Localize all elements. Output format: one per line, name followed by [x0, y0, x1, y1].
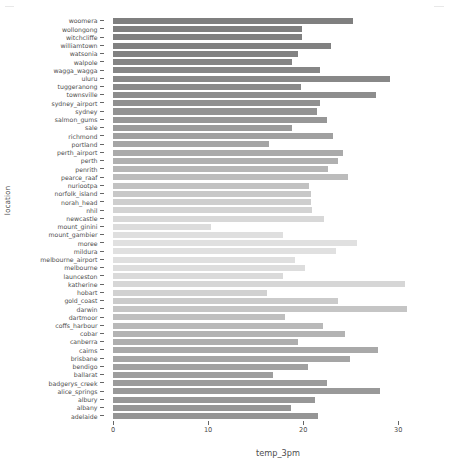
- bar-row: [113, 83, 443, 91]
- bar-row: [113, 33, 443, 41]
- bar[interactable]: [113, 133, 333, 139]
- y-tick-mark: [100, 193, 104, 194]
- y-tick-label-row: newcastle: [0, 215, 104, 223]
- bar-row: [113, 91, 443, 99]
- bar[interactable]: [113, 323, 323, 329]
- y-tick-mark: [100, 234, 104, 235]
- bar-row: [113, 99, 443, 107]
- bar[interactable]: [113, 76, 390, 82]
- bar[interactable]: [113, 174, 348, 180]
- bar[interactable]: [113, 290, 267, 296]
- bar[interactable]: [113, 281, 405, 287]
- y-tick-mark: [100, 102, 104, 103]
- bar[interactable]: [113, 207, 312, 213]
- y-tick-label: albany: [77, 404, 98, 412]
- bar[interactable]: [113, 306, 407, 312]
- bar[interactable]: [113, 216, 324, 222]
- bar[interactable]: [113, 183, 309, 189]
- bar[interactable]: [113, 100, 320, 106]
- bar[interactable]: [113, 380, 327, 386]
- y-tick-label-row: hobart: [0, 289, 104, 297]
- x-tick-mark: [113, 421, 114, 425]
- y-tick-label: williamtown: [61, 42, 98, 50]
- y-tick-label: albury: [78, 396, 98, 404]
- y-tick-mark: [100, 275, 104, 276]
- bar[interactable]: [113, 331, 345, 337]
- bar[interactable]: [113, 158, 338, 164]
- bar[interactable]: [113, 18, 353, 24]
- y-tick-mark: [100, 86, 104, 87]
- bar[interactable]: [113, 413, 318, 419]
- bar[interactable]: [113, 84, 301, 90]
- y-tick-label-row: katherine: [0, 281, 104, 289]
- y-tick-mark: [100, 251, 104, 252]
- bar[interactable]: [113, 265, 305, 271]
- bar[interactable]: [113, 199, 311, 205]
- bar[interactable]: [113, 67, 320, 73]
- bar[interactable]: [113, 388, 380, 394]
- bar[interactable]: [113, 191, 311, 197]
- y-tick-label: portland: [71, 141, 97, 149]
- bar-row: [113, 198, 443, 206]
- y-tick-label-row: dartmoor: [0, 313, 104, 321]
- bar[interactable]: [113, 339, 298, 345]
- bar[interactable]: [113, 43, 331, 49]
- y-tick-mark: [100, 37, 104, 38]
- y-tick-label: pearce_raaf: [61, 174, 98, 182]
- bar-row: [113, 182, 443, 190]
- bar-row: [113, 330, 443, 338]
- bar[interactable]: [113, 397, 315, 403]
- bar[interactable]: [113, 364, 308, 370]
- bar[interactable]: [113, 347, 378, 353]
- bar[interactable]: [113, 248, 336, 254]
- bar[interactable]: [113, 166, 328, 172]
- bar[interactable]: [113, 108, 317, 114]
- y-tick-mark: [100, 135, 104, 136]
- y-tick-mark: [100, 292, 104, 293]
- y-axis-title: location: [3, 186, 12, 215]
- y-tick-mark: [100, 94, 104, 95]
- y-tick-mark: [100, 333, 104, 334]
- y-tick-mark: [100, 366, 104, 367]
- y-tick-label-row: sale: [0, 124, 104, 132]
- x-tick-label: 20: [299, 426, 307, 434]
- bar[interactable]: [113, 405, 291, 411]
- bar[interactable]: [113, 125, 292, 131]
- y-tick-mark: [100, 242, 104, 243]
- bar[interactable]: [113, 273, 283, 279]
- bar[interactable]: [113, 298, 338, 304]
- bar[interactable]: [113, 150, 343, 156]
- y-tick-mark: [100, 317, 104, 318]
- y-tick-label-row: sydney: [0, 108, 104, 116]
- y-tick-mark: [100, 28, 104, 29]
- y-tick-label-row: wagga_wagga: [0, 66, 104, 74]
- bar[interactable]: [113, 224, 211, 230]
- y-tick-label: perth: [81, 157, 98, 165]
- bar-row: [113, 132, 443, 140]
- y-tick-mark: [100, 111, 104, 112]
- bar[interactable]: [113, 92, 376, 98]
- bar[interactable]: [113, 34, 302, 40]
- bar[interactable]: [113, 372, 273, 378]
- bar-row: [113, 141, 443, 149]
- bar[interactable]: [113, 141, 269, 147]
- bar-row: [113, 190, 443, 198]
- bar[interactable]: [113, 51, 298, 57]
- bar[interactable]: [113, 26, 302, 32]
- y-tick-label-row: melbourne_airport: [0, 256, 104, 264]
- bar[interactable]: [113, 257, 295, 263]
- y-tick-label-row: sydney_airport: [0, 99, 104, 107]
- bar-row: [113, 239, 443, 247]
- y-tick-mark: [100, 177, 104, 178]
- bar-row: [113, 108, 443, 116]
- bar[interactable]: [113, 59, 292, 65]
- bar[interactable]: [113, 117, 327, 123]
- x-tick-mark: [303, 421, 304, 425]
- y-tick-label-row: walpole: [0, 58, 104, 66]
- bar-row: [113, 116, 443, 124]
- bar[interactable]: [113, 240, 357, 246]
- y-tick-label: tuggeranong: [58, 83, 98, 91]
- bar[interactable]: [113, 356, 350, 362]
- bar[interactable]: [113, 314, 285, 320]
- bar[interactable]: [113, 232, 283, 238]
